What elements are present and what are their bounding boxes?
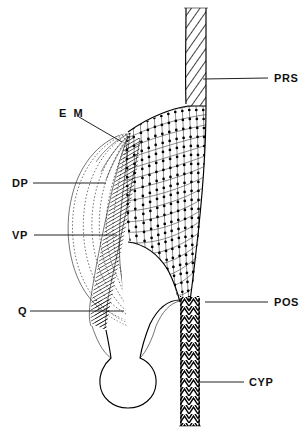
leader-em	[79, 117, 122, 142]
figure-canvas: PRS E M DP VP Q POS CYP	[0, 0, 307, 434]
label-dp: DP	[12, 177, 28, 189]
label-vp: VP	[12, 229, 28, 241]
anatomical-diagram-svg: PRS E M DP VP Q POS CYP	[0, 0, 307, 434]
leader-prs	[203, 78, 268, 79]
label-pos: POS	[274, 296, 299, 308]
label-prs: PRS	[274, 72, 298, 84]
label-em: E M	[59, 107, 85, 119]
quadrate-region	[92, 300, 180, 408]
label-q: Q	[18, 305, 27, 317]
label-cyp: CYP	[249, 376, 273, 388]
upper-tube-region	[180, 0, 214, 120]
lower-tube-region	[178, 294, 204, 428]
main-body-region	[118, 100, 214, 310]
